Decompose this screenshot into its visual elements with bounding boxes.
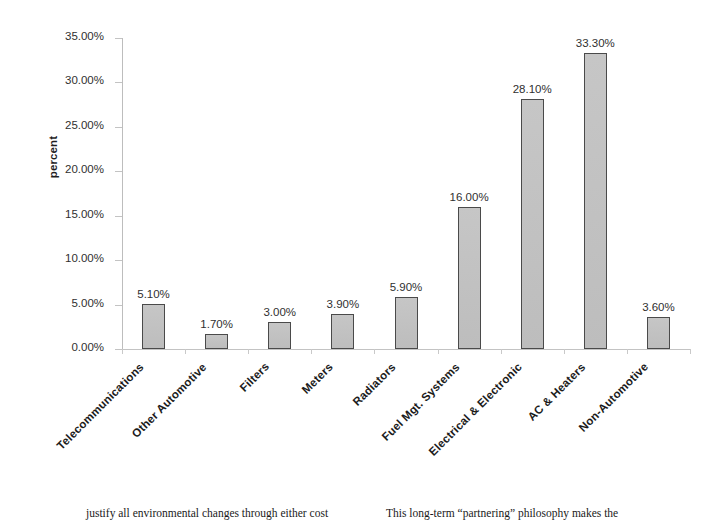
x-axis-tick <box>501 349 502 354</box>
bar-value-label: 3.00% <box>263 306 296 318</box>
x-axis-tick <box>564 349 565 354</box>
x-axis-category-label: Telecommunications <box>54 360 145 451</box>
x-axis-tick <box>248 349 249 354</box>
y-axis-tick-label: 25.00% <box>65 119 104 131</box>
y-axis-tick: 0.00% <box>115 349 122 350</box>
bar-value-label: 16.00% <box>450 191 489 203</box>
body-text-right-column: This long-term “partnering” philosophy m… <box>386 507 618 519</box>
y-axis-tick-label: 35.00% <box>65 30 104 42</box>
x-axis-tick <box>374 349 375 354</box>
x-axis-tick <box>185 349 186 354</box>
y-axis-tick: 25.00% <box>115 127 122 128</box>
x-axis-category-label: Non-Automotive <box>577 360 651 434</box>
x-axis-category-label: Radiators <box>351 361 398 408</box>
bar-value-label: 1.70% <box>200 318 233 330</box>
x-axis-tick <box>627 349 628 354</box>
bar: 16.00% <box>458 207 481 349</box>
bar-value-label: 33.30% <box>576 37 615 49</box>
bar: 1.70% <box>205 334 228 349</box>
bar-value-label: 5.90% <box>390 281 423 293</box>
bar-chart-figure: percent 35.00%30.00%25.00%20.00%15.00%10… <box>0 0 703 495</box>
bar: 33.30% <box>584 53 607 349</box>
x-axis-tick <box>690 349 691 354</box>
y-axis-tick: 35.00% <box>115 38 122 39</box>
bar: 28.10% <box>521 99 544 349</box>
y-axis-tick-label: 30.00% <box>65 74 104 86</box>
y-axis-tick: 20.00% <box>115 171 122 172</box>
bar-value-label: 3.90% <box>327 298 360 310</box>
x-axis-category-label: AC & Heaters <box>525 361 587 423</box>
y-axis-tick: 15.00% <box>115 216 122 217</box>
bar-value-label: 28.10% <box>513 83 552 95</box>
y-axis-tick: 10.00% <box>115 260 122 261</box>
y-axis-tick-label: 0.00% <box>71 341 104 353</box>
y-axis-line <box>122 38 123 349</box>
bar-value-label: 3.60% <box>642 301 675 313</box>
y-axis-tick-label: 20.00% <box>65 163 104 175</box>
x-axis-tick <box>122 349 123 354</box>
plot-area: 35.00%30.00%25.00%20.00%15.00%10.00%5.00… <box>122 30 690 349</box>
body-text-left-column: justify all environmental changes throug… <box>86 507 328 519</box>
y-axis-tick-label: 5.00% <box>71 297 104 309</box>
x-axis-line <box>122 349 690 350</box>
bar: 3.60% <box>647 317 670 349</box>
x-axis-tick <box>438 349 439 354</box>
y-axis-tick: 5.00% <box>115 305 122 306</box>
bar-value-label: 5.10% <box>137 288 170 300</box>
x-axis-tick <box>311 349 312 354</box>
bar: 5.10% <box>142 304 165 349</box>
y-axis-tick-label: 15.00% <box>65 208 104 220</box>
x-axis-category-label: Filters <box>238 361 272 395</box>
bar: 3.90% <box>331 314 354 349</box>
x-axis-category-label: Meters <box>300 360 336 396</box>
y-axis-tick-label: 10.00% <box>65 252 104 264</box>
bar: 3.00% <box>268 322 291 349</box>
bar: 5.90% <box>395 297 418 349</box>
page-body-text: justify all environmental changes throug… <box>0 495 703 522</box>
y-axis-tick: 30.00% <box>115 82 122 83</box>
